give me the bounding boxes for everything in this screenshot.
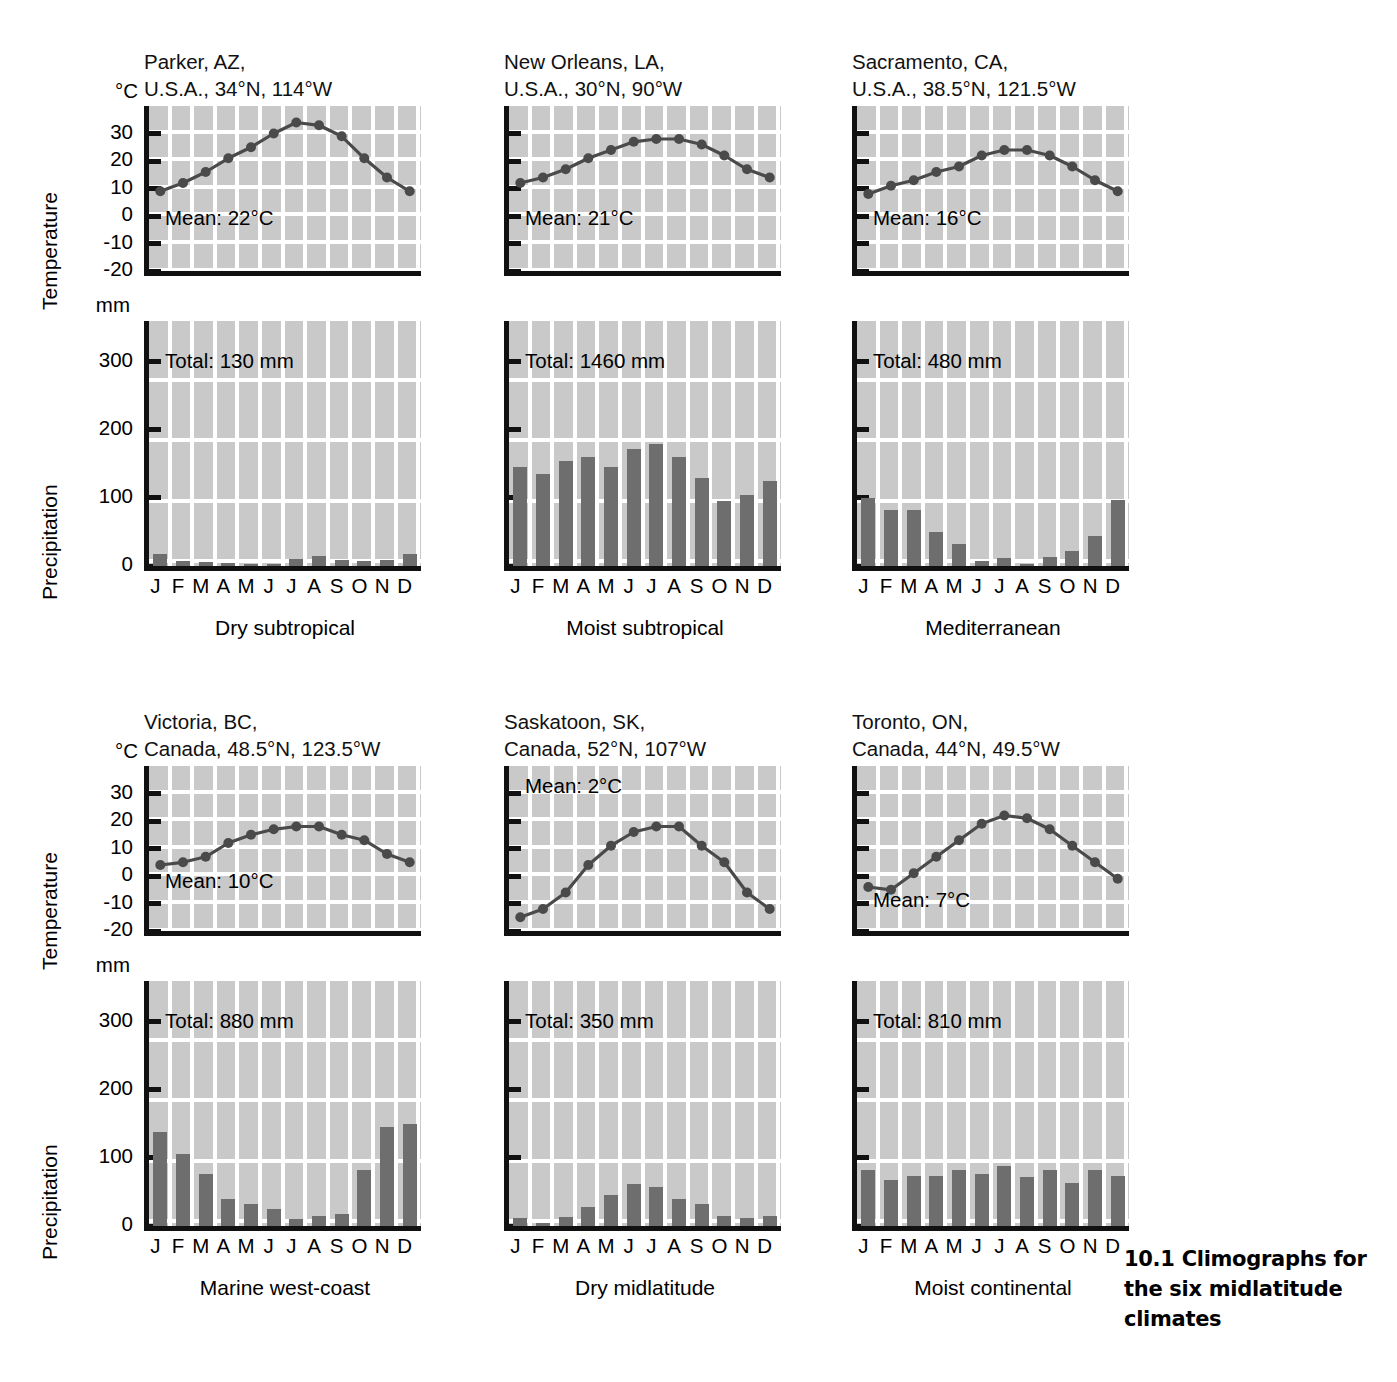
- month-label: A: [303, 574, 326, 598]
- precipitation-bar: [695, 478, 709, 566]
- precipitation-bar: [221, 563, 235, 566]
- precipitation-tick-label: 300: [87, 1008, 133, 1032]
- station-title-victoria-bc: Victoria, BC, Canada, 48.5°N, 123.5°W: [144, 708, 428, 762]
- precipitation-tick-label: 300: [87, 348, 133, 372]
- temperature-chart-wrap-toronto-on: Mean: 7°C: [816, 766, 1136, 936]
- month-label: A: [920, 574, 943, 598]
- temperature-point: [1067, 162, 1077, 172]
- precipitation-chart-wrap-toronto-on: Total: 810 mmJFMAMJJASONDMoist continent…: [816, 981, 1136, 1300]
- precipitation-bar: [1111, 500, 1125, 566]
- climograph-panel-toronto-on: Toronto, ON, Canada, 44°N, 49.5°WMean: 7…: [816, 708, 1136, 1300]
- month-label: M: [943, 1234, 966, 1258]
- precipitation-bar: [929, 1176, 943, 1226]
- temperature-point: [954, 162, 964, 172]
- temperature-point: [314, 120, 324, 130]
- temperature-point: [583, 153, 593, 163]
- temperature-tick-label: -10: [87, 890, 133, 914]
- precipitation-bar: [717, 501, 731, 566]
- precipitation-chart-wrap-victoria-bc: mm3002001000Total: 880 mmJFMAMJJASONDMar…: [108, 981, 428, 1300]
- month-label: J: [280, 1234, 303, 1258]
- month-label: M: [189, 574, 212, 598]
- precipitation-bar: [153, 1132, 167, 1226]
- temperature-point: [719, 151, 729, 161]
- precipitation-chart-wrap-parker-az: mm3002001000Total: 130 mmJFMAMJJASONDDry…: [108, 321, 428, 640]
- temperature-point: [405, 186, 415, 196]
- climate-type-label-dry-subtropical: Dry subtropical: [144, 598, 426, 640]
- precipitation-bar: [312, 556, 326, 566]
- temperature-tick-label: 30: [87, 120, 133, 144]
- station-title-toronto-on: Toronto, ON, Canada, 44°N, 49.5°W: [852, 708, 1136, 762]
- precipitation-bar: [176, 1154, 190, 1226]
- precipitation-bar: [581, 1207, 595, 1226]
- precipitation-bar: [627, 1184, 641, 1226]
- figure-caption: 10.1Climographs for the six midlatitude …: [1124, 1244, 1394, 1334]
- month-label: D: [1101, 1234, 1124, 1258]
- month-label: J: [640, 1234, 663, 1258]
- month-label: A: [1011, 574, 1034, 598]
- precipitation-chart-saskatoon-sk: Total: 350 mm: [504, 981, 781, 1231]
- precipitation-bar: [289, 559, 303, 566]
- precipitation-tick-label: 0: [87, 552, 133, 576]
- precipitation-unit-label: mm: [86, 293, 130, 317]
- precipitation-bar: [199, 1174, 213, 1226]
- precipitation-bar: [244, 564, 258, 566]
- precipitation-chart-toronto-on: Total: 810 mm: [852, 981, 1129, 1231]
- precipitation-bar: [884, 510, 898, 566]
- precipitation-bar: [649, 1187, 663, 1226]
- total-precipitation-annotation-sacramento-ca: Total: 480 mm: [873, 349, 1002, 373]
- temperature-point: [561, 888, 571, 898]
- month-label: J: [988, 1234, 1011, 1258]
- temperature-point: [538, 173, 548, 183]
- temperature-unit-label: °C: [94, 739, 138, 763]
- precipitation-bar: [536, 474, 550, 566]
- precipitation-bar: [649, 444, 663, 567]
- temperature-plot-area-victoria-bc: [149, 766, 421, 931]
- month-label: S: [1033, 574, 1056, 598]
- precipitation-bar: [581, 457, 595, 566]
- month-axis-labels-toronto-on: JFMAMJJASOND: [852, 1231, 1124, 1258]
- temperature-tick-label: 20: [87, 147, 133, 171]
- temperature-point: [1067, 841, 1077, 851]
- month-label: J: [965, 574, 988, 598]
- total-precipitation-annotation-toronto-on: Total: 810 mm: [873, 1009, 1002, 1033]
- month-label: M: [235, 1234, 258, 1258]
- precipitation-bar: [861, 498, 875, 566]
- temperature-point: [742, 164, 752, 174]
- precipitation-bar: [289, 1219, 303, 1226]
- month-label: S: [685, 574, 708, 598]
- climograph-panel-victoria-bc: Victoria, BC, Canada, 48.5°N, 123.5°W°C3…: [108, 708, 428, 1300]
- temperature-tick-label: 0: [87, 862, 133, 886]
- precipitation-bar: [267, 564, 281, 566]
- temperature-tick-label: 20: [87, 807, 133, 831]
- precipitation-bar: [1020, 1177, 1034, 1226]
- temperature-tick-label: 0: [87, 202, 133, 226]
- climate-type-label-moist-continental: Moist continental: [852, 1258, 1134, 1300]
- temperature-point: [651, 822, 661, 832]
- precipitation-bar: [513, 1218, 527, 1226]
- month-label: J: [257, 574, 280, 598]
- station-title-new-orleans-la: New Orleans, LA, U.S.A., 30°N, 90°W: [504, 48, 788, 102]
- climograph-panel-new-orleans-la: New Orleans, LA, U.S.A., 30°N, 90°WMean:…: [468, 48, 788, 640]
- temperature-point: [765, 904, 775, 914]
- month-axis-labels-new-orleans-la: JFMAMJJASOND: [504, 571, 776, 598]
- temperature-point: [977, 819, 987, 829]
- figure-caption-number: 10.1: [1124, 1247, 1175, 1271]
- precipitation-bar: [176, 561, 190, 566]
- temperature-point: [1022, 813, 1032, 823]
- temperature-point: [1090, 857, 1100, 867]
- temperature-point: [651, 134, 661, 144]
- temperature-chart-toronto-on: Mean: 7°C: [852, 766, 1129, 936]
- month-label: J: [257, 1234, 280, 1258]
- precipitation-bar: [740, 495, 754, 566]
- temperature-point: [359, 835, 369, 845]
- temperature-chart-victoria-bc: 3020100-10-20Mean: 10°C: [144, 766, 421, 936]
- temperature-point: [719, 857, 729, 867]
- precipitation-unit-label: mm: [86, 953, 130, 977]
- temperature-point: [178, 178, 188, 188]
- temperature-line-sacramento-ca: [868, 150, 1117, 194]
- month-label: A: [212, 574, 235, 598]
- temperature-point: [1113, 874, 1123, 884]
- precipitation-bar: [312, 1216, 326, 1226]
- temperature-tick-label: -20: [87, 917, 133, 941]
- month-label: O: [348, 1234, 371, 1258]
